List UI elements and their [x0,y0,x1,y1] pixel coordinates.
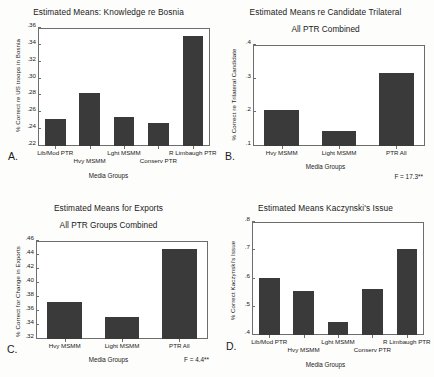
panel-a-x-axis-title: Media Groups [0,172,217,179]
x-tick-mark [339,146,340,149]
y-tick-label: .2 [246,106,251,112]
x-tick-label: Hvy MSMM [288,346,320,354]
y-tick-mark [36,268,39,269]
chart-panel-d: Estimated Means Kaczynski's Issue .4.5.6… [217,188,434,377]
y-tick-label: .34 [27,39,36,45]
panel-a-bars [38,28,210,146]
panel-c-x-tick-labels: Hvy MSMMLight MSMMPTR All [0,341,217,353]
panel-c-titles: Estimated Means for Exports All PTR Grou… [0,202,217,231]
x-tick-label: PTR All [386,149,407,157]
y-tick-mark [36,240,39,241]
bar-slot [355,222,389,335]
x-tick-mark [304,335,305,338]
bar [264,110,298,146]
y-tick-mark [252,249,255,250]
y-tick-mark [38,94,41,95]
y-tick-mark [36,324,39,325]
bar [397,249,418,335]
bar-slot [321,222,355,335]
x-tick-label: R Limbaugh PTR [169,149,216,157]
y-tick-mark [253,111,256,112]
y-tick-mark [36,282,39,283]
x-tick-mark [55,146,56,149]
panel-d-y-axis-label: % Correct Kaczynski's Issue [229,228,236,333]
y-tick-mark [36,296,39,297]
x-tick-mark [269,335,270,338]
y-tick-mark [38,145,41,146]
bar [183,36,204,146]
y-tick-mark [38,128,41,129]
y-tick-label: .34 [25,319,34,325]
x-tick-label: Hvy MSMM [266,149,298,157]
bar [148,123,169,146]
panel-c-title: Estimated Means for Exports [0,202,217,214]
bar-slot [176,28,210,146]
panel-b-letter: B. [225,150,235,162]
y-tick-mark [253,145,256,146]
bar [162,249,196,339]
x-tick-mark [372,335,373,338]
x-tick-label: Lght MSMM [321,338,354,346]
x-tick-mark [179,339,180,342]
bar [105,317,139,339]
y-tick-label: .32 [25,333,34,339]
y-tick-label: .6 [245,273,250,279]
panel-c-y-axis-label: % Correct for Change in Exports [14,234,21,349]
x-tick-label: Light MSMM [105,342,140,350]
panel-b-x-tick-labels: Hvy MSMMLight MSMMPTR All [217,148,434,160]
panel-b-y-axis-label: % Correct re Trilateral Candidate [230,40,237,150]
chart-panel-c: Estimated Means for Exports All PTR Grou… [0,188,217,377]
y-tick-label: .32 [27,56,36,62]
y-tick-label: .30 [27,73,36,79]
y-tick-label: .7 [245,244,250,250]
y-tick-label: .5 [245,301,250,307]
x-tick-label: R Limbaugh PTR [383,338,430,346]
panel-a-y-axis-label: % Correct re US troops in Bosnia [14,26,21,146]
panel-a-titles: Estimated Means: Knowledge re Bosnia [0,6,217,18]
bar [293,291,314,335]
y-tick-label: .1 [246,140,251,146]
bar-slot [107,28,141,146]
panel-b-x-axis-title: Media Groups [217,163,434,170]
bar [328,322,349,335]
y-tick-label: .4 [245,329,250,335]
panel-b-title: Estimated Means re Candidate Trilateral [217,6,434,18]
y-tick-mark [36,254,39,255]
x-tick-mark [396,146,397,149]
y-tick-label: .28 [27,89,36,95]
panel-d-plot-area: .4.5.6.7.8 [252,222,424,335]
x-tick-label: Hvy MSMM [74,157,106,165]
y-tick-mark [38,78,41,79]
y-tick-mark [38,111,41,112]
bar-slot [36,241,93,339]
y-tick-mark [36,310,39,311]
y-tick-label: .26 [27,106,36,112]
panel-a-x-tick-labels: Lib/Mod PTRHvy MSMMLght MSMMConserv PTRR… [0,148,217,168]
bar-slot [72,28,106,146]
y-tick-label: .42 [25,263,34,269]
panel-d-title: Estimated Means Kaczynski's Issue [217,202,434,214]
panel-b-f-statistic: F = 17.3** [394,173,423,180]
x-tick-label: Lght MSMM [107,149,140,157]
panel-c-letter: C. [7,343,18,355]
bar [79,93,100,146]
panel-a-title: Estimated Means: Knowledge re Bosnia [0,6,217,18]
y-tick-label: .44 [25,249,34,255]
chart-panel-a: Estimated Means: Knowledge re Bosnia .22… [0,0,217,188]
bar [47,302,81,339]
bar [114,117,135,146]
bar [45,119,66,146]
x-tick-label: PTR All [169,342,190,350]
y-tick-label: .36 [27,22,36,28]
y-tick-label: .22 [27,140,36,146]
panel-a-plot-area: .22.24.26.28.30.32.34.36 [38,28,210,146]
x-tick-mark [407,335,408,338]
bar-slot [390,222,424,335]
figure-panel-grid: Estimated Means: Knowledge re Bosnia .22… [0,0,434,377]
panel-b-plot-area: .1.2.3.4 [253,45,425,146]
y-tick-label: .4 [246,39,251,45]
x-tick-mark [122,339,123,342]
y-tick-label: .40 [25,277,34,283]
x-tick-mark [65,339,66,342]
y-tick-label: .24 [27,123,36,129]
